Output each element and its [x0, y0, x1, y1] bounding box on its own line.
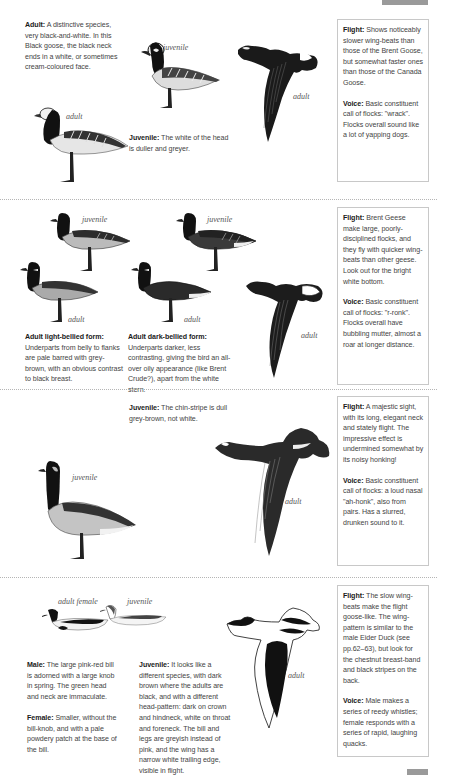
- canada-info-panel: Flight: A majestic sight, with its long,…: [337, 396, 429, 566]
- flight-info: Flight: Shows noticeably slower wing-bea…: [343, 25, 424, 89]
- male-description: Male: The large pink-red bill is adorned…: [27, 660, 117, 702]
- label-flying-adult: adult: [301, 331, 317, 340]
- shelduck-flying-illustration: [227, 604, 322, 719]
- section-divider: [0, 577, 437, 578]
- juvenile-description: Juvenile: It looks like a different spec…: [139, 660, 231, 777]
- juvenile-description: Juvenile: The chin-stripe is dull grey-b…: [129, 403, 229, 424]
- brent-flying-illustration: [246, 272, 326, 382]
- flight-info: Flight: The slow wing-beats make the fli…: [343, 591, 424, 686]
- canada-flying-illustration: [215, 423, 325, 558]
- female-description: Female: Smaller, without the bill-knob, …: [27, 713, 117, 755]
- section-divider: [0, 199, 437, 200]
- label-juvenile: juvenile: [72, 473, 97, 482]
- top-page-tab: [382, 0, 428, 5]
- brent-adult-dark-illustration: [133, 260, 213, 330]
- voice-info: Voice: Basic constituent call of flocks:…: [343, 297, 424, 350]
- label-juvenile-right: juvenile: [207, 215, 232, 224]
- label-adult: adult: [66, 112, 82, 121]
- label-adult-dark: adult: [184, 315, 200, 324]
- voice-info: Voice: Basic constituent call of flocks:…: [343, 99, 424, 141]
- barnacle-info-panel: Flight: Shows noticeably slower wing-bea…: [337, 19, 429, 182]
- adult-light-bellied-description: Adult light-bellied form:Underparts from…: [25, 332, 125, 385]
- flight-info: Flight: Brent Geese make large, poorly-d…: [343, 213, 424, 287]
- label-adult-female: adult female: [58, 597, 98, 606]
- section-divider: [0, 389, 437, 390]
- adult-dark-bellied-description: Adult dark-bellied form:Underparts darke…: [128, 332, 236, 396]
- barnacle-flying-illustration: [238, 28, 318, 146]
- label-flying-adult: adult: [285, 497, 301, 506]
- label-flying-adult: adult: [293, 92, 309, 101]
- juvenile-description: Juvenile: The white of the head is dulle…: [129, 133, 229, 154]
- label-adult-light: adult: [68, 315, 84, 324]
- flight-info: Flight: A majestic sight, with its long,…: [343, 402, 424, 466]
- adult-description: Adult: A distinctive species, very black…: [25, 20, 123, 73]
- voice-info: Voice: Basic constituent call of flocks:…: [343, 476, 424, 529]
- bottom-page-tab: [407, 769, 428, 775]
- brent-adult-light-illustration: [22, 260, 100, 330]
- shelduck-info-panel: Flight: The slow wing-beats make the fli…: [337, 585, 429, 757]
- label-flying-adult: adult: [288, 671, 304, 680]
- label-juvenile: juvenile: [163, 43, 188, 52]
- voice-info: Voice: Male makes a series of reedy whis…: [343, 696, 424, 749]
- label-juvenile-left: juvenile: [82, 215, 107, 224]
- brent-info-panel: Flight: Brent Geese make large, poorly-d…: [337, 207, 429, 385]
- shelduck-juvenile-swimming-illustration: [98, 603, 168, 631]
